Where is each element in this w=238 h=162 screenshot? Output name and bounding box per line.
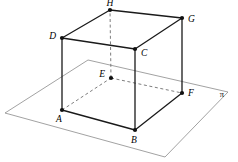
edge-A-B <box>62 110 135 130</box>
plane-label-group: π <box>220 89 225 99</box>
plane-label-pi: π <box>220 89 225 99</box>
hidden-edges-group <box>62 10 182 110</box>
vertex-label-b: B <box>131 135 137 145</box>
geometry-figure: ABCDEFGH π <box>0 0 238 162</box>
vertex-dot-c <box>133 47 137 51</box>
vertex-labels-group: ABCDEFGH <box>48 0 195 145</box>
vertex-label-d: D <box>48 31 56 41</box>
vertex-dot-e <box>109 76 113 80</box>
vertex-dot-d <box>60 36 64 40</box>
vertex-dot-a <box>60 108 64 112</box>
vertex-label-a: A <box>55 114 62 124</box>
vertex-label-e: E <box>98 69 105 79</box>
edge-E-H <box>110 10 111 78</box>
vertex-label-h: H <box>106 0 115 8</box>
vertex-dot-f <box>180 91 184 95</box>
edge-H-G <box>110 10 182 18</box>
edge-B-F <box>135 93 182 130</box>
vertex-dot-h <box>108 8 112 12</box>
vertex-label-g: G <box>188 14 195 24</box>
figure-canvas: ABCDEFGH π <box>0 0 238 162</box>
edge-C-G <box>135 18 182 49</box>
vertex-dot-b <box>133 128 137 132</box>
vertex-dot-g <box>180 16 184 20</box>
vertex-label-f: F <box>187 88 194 98</box>
solid-edges-group <box>62 10 182 130</box>
edge-A-E <box>62 78 111 110</box>
edge-D-C <box>62 38 135 49</box>
edge-D-H <box>62 10 110 38</box>
plane-outline <box>5 60 228 157</box>
vertex-dots-group <box>60 8 184 132</box>
edge-E-F <box>111 78 182 93</box>
plane-pi <box>5 60 228 157</box>
vertex-label-c: C <box>141 48 148 58</box>
